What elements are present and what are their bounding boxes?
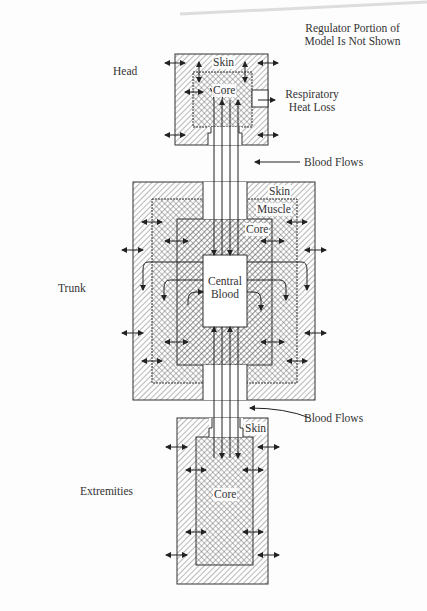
head-skin-label: Skin	[212, 56, 235, 69]
extremities-label: Extremities	[80, 485, 133, 498]
head-label: Head	[113, 65, 137, 78]
trunk-skin-label: Skin	[268, 185, 291, 198]
regulator-note: Regulator Portion of Model Is Not Shown	[295, 22, 410, 48]
blood-flows-lower-leader	[250, 408, 310, 418]
trunk-core-label: Core	[245, 223, 269, 236]
trunk-muscle-label: Muscle	[256, 203, 292, 216]
blood-flows-lower-label: Blood Flows	[304, 412, 363, 425]
extremities-core-label: Core	[213, 488, 237, 501]
extremities-skin-label: Skin	[244, 422, 267, 435]
respiratory-heat-loss-label: Respiratory Heat Loss	[282, 88, 342, 114]
head-core-label: Core	[212, 84, 236, 97]
trunk-label: Trunk	[58, 282, 86, 295]
thermoregulation-model-diagram: Regulator Portion of Model Is Not Shown …	[0, 0, 427, 611]
central-blood-label: Central Blood	[203, 275, 247, 301]
blood-flows-upper-label: Blood Flows	[304, 156, 363, 169]
